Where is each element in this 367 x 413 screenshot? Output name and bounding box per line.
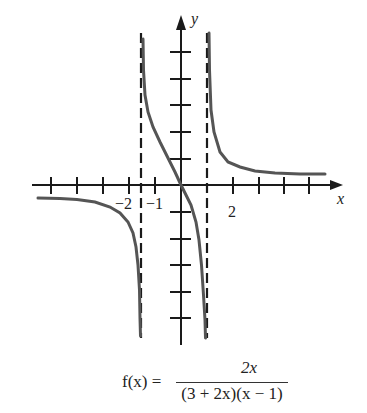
x-tick-label-2: 2 [228, 203, 236, 221]
function-graph [0, 0, 367, 413]
x-tick-label-neg2: −2 [115, 195, 132, 213]
x-axis-label: x [337, 190, 344, 208]
x-tick-label-neg1: −1 [146, 195, 163, 213]
right-branch [209, 33, 325, 174]
x-axis-arrow-icon [330, 180, 343, 190]
x-axis [32, 180, 343, 190]
fraction-bar [176, 382, 288, 383]
formula-lhs: f(x) = [122, 372, 161, 392]
function-formula: f(x) = 2x (3 + 2x)(x − 1) [118, 360, 298, 410]
middle-branch [143, 39, 206, 338]
formula-denominator: (3 + 2x)(x − 1) [174, 384, 290, 404]
left-branch [38, 198, 141, 336]
y-axis-label: y [191, 10, 198, 28]
y-axis-arrow-icon [176, 15, 186, 30]
formula-numerator: 2x [194, 358, 304, 378]
